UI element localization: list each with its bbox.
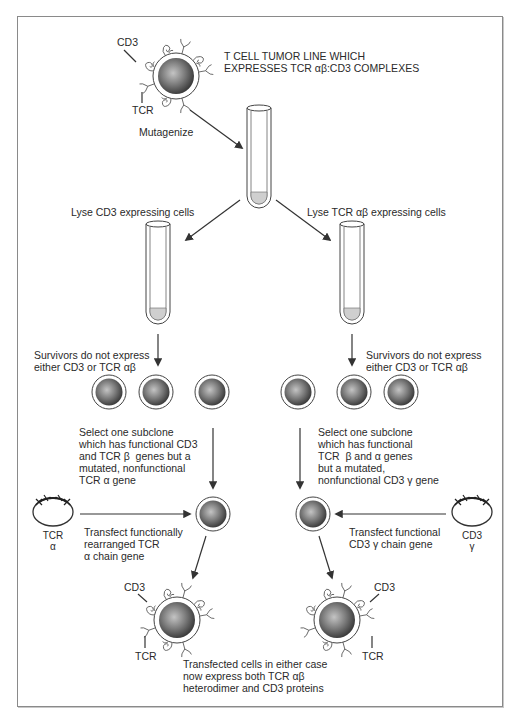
survivors-right-line1: Survivors do not express <box>366 349 482 361</box>
transfect-right-line: Transfect functional <box>349 526 440 538</box>
lyse-tcr-label: Lyse TCR αβ expressing cells <box>307 206 446 218</box>
transfected-cell-icon <box>301 583 375 657</box>
transfect-left-line: rearranged TCR <box>84 538 160 550</box>
cell-icon <box>92 375 126 409</box>
select-right-line: which has functional <box>318 438 413 450</box>
test-tube-icon <box>146 221 170 324</box>
selected-cell-icon <box>196 497 230 531</box>
select-left-line: which has functional CD3 <box>79 438 197 450</box>
result-left-tcr-label: TCR <box>135 650 157 662</box>
plasmid-right-label-line2: γ <box>457 541 487 553</box>
plasmid-left-label-line2: α <box>38 541 68 553</box>
select-right-line: Select one subclone <box>318 426 413 438</box>
conclusion-line: now express both TCR αβ <box>183 670 305 682</box>
select-right-line: TCR β and α genes <box>318 450 412 462</box>
transfect-right-line: CD3 γ chain gene <box>349 538 432 550</box>
survivors-left-line1: Survivors do not express <box>34 349 150 361</box>
select-left-line: mutated, nonfunctional <box>79 462 185 474</box>
result-right-cd3-label: CD3 <box>374 581 395 593</box>
select-right-line: but a mutated, <box>318 462 385 474</box>
test-tube-icon <box>247 105 271 208</box>
tumor-cell-icon <box>140 39 214 113</box>
lyse-cd3-label: Lyse CD3 expressing cells <box>71 206 194 218</box>
cell-icon <box>195 375 229 409</box>
cell-icon <box>337 375 371 409</box>
result-right-tcr-label: TCR <box>362 650 384 662</box>
select-left-line: and TCR β genes but a <box>79 450 191 462</box>
transfect-left-line: α chain gene <box>84 550 144 562</box>
mutagenize-label: Mutagenize <box>139 126 193 138</box>
cell-icon <box>139 375 173 409</box>
select-left-line: TCR α gene <box>79 474 136 486</box>
top-cell-title-line2: EXPRESSES TCR αβ:CD3 COMPLEXES <box>224 62 419 74</box>
plasmid-icon <box>452 495 492 526</box>
selected-cell-icon <box>296 497 330 531</box>
survivors-right-line2: either CD3 or TCR αβ <box>366 361 468 373</box>
test-tube-icon <box>340 221 364 324</box>
plasmid-icon <box>33 495 73 526</box>
transfect-left-line: Transfect functionally <box>84 526 183 538</box>
conclusion-line: heterodimer and CD3 proteins <box>183 682 324 694</box>
select-right-line: nonfunctional CD3 γ gene <box>318 474 439 486</box>
result-left-cd3-label: CD3 <box>124 581 145 593</box>
cell-icon <box>384 375 418 409</box>
top-cell-title-line1: T CELL TUMOR LINE WHICH <box>224 50 365 62</box>
transfected-cell-icon <box>141 583 215 657</box>
tcr-label: TCR <box>132 104 154 116</box>
cd3-label: CD3 <box>117 36 138 48</box>
survivors-left-line2: either CD3 or TCR αβ <box>34 361 136 373</box>
select-left-line: Select one subclone <box>79 426 174 438</box>
cell-icon <box>281 375 315 409</box>
conclusion-line: Transfected cells in either case <box>183 658 327 670</box>
